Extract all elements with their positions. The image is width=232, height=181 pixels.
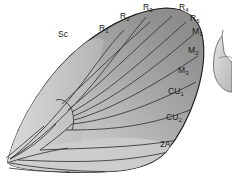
vein-label-m2: M2 [188,46,199,55]
vein-label-r2: R2 [120,12,130,21]
hindwing-fragment [213,30,232,92]
vein-label-r4: R4 [179,3,189,12]
vein-label-r3: R3 [143,3,153,12]
vein-label-sc: Sc [58,30,68,39]
vein-label-cu1: CU1 [168,87,184,96]
vein-label-m1: M1 [192,27,203,36]
vein-label-cu2: CU2 [166,113,182,122]
wing-venation-figure: Sc R1 R2 R3 R4 R5 M1 M2 M3 CU1 CU2 2A [0,0,232,181]
vein-label-r1: R1 [99,24,109,33]
vein-label-m3: M3 [178,66,189,75]
vein-label-r5: R5 [190,14,200,23]
vein-label-2a: 2A [160,140,171,149]
